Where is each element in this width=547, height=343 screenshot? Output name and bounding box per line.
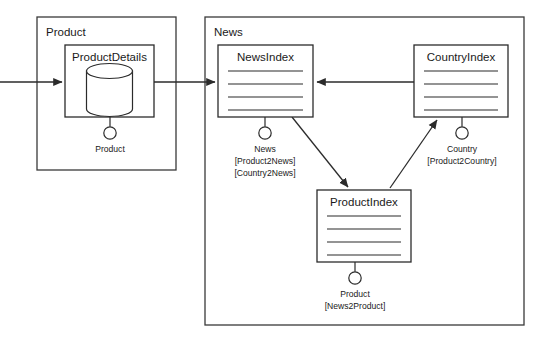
frame-product-label: Product [46,26,86,38]
component-product-index[interactable]: ProductIndex [317,190,411,262]
component-diagram-canvas: Product News ProductDetails Ne [0,0,547,343]
component-product-index-title: ProductIndex [330,196,398,208]
interface-product-details-circle-icon [104,127,116,139]
component-country-index-title: CountryIndex [427,51,496,63]
diagram-svg: Product News ProductDetails Ne [0,0,547,343]
interface-product-index-label: Product [340,289,370,299]
database-cylinder-icon [87,64,133,117]
component-news-index[interactable]: NewsIndex [218,45,313,117]
interface-product-details-label: Product [95,144,125,154]
interface-news-index-binding-0: [Product2News] [235,156,296,166]
frame-news-label: News [214,26,243,38]
component-product-details[interactable]: ProductDetails [65,45,154,117]
interface-product-index-binding-0: [News2Product] [325,301,386,311]
interface-news-index-circle-icon [259,127,271,139]
interface-product-index-circle-icon [349,272,361,284]
component-country-index[interactable]: CountryIndex [414,45,508,117]
interface-country-index-circle-icon [456,127,468,139]
interface-news-index-binding-1: [Country2News] [234,168,295,178]
interface-country-index-label: Country [447,144,478,154]
component-product-details-title: ProductDetails [72,51,147,63]
interface-news-index-label: News [254,144,276,154]
component-news-index-title: NewsIndex [237,51,294,63]
interface-country-index-binding-0: [Product2Country] [427,156,496,166]
